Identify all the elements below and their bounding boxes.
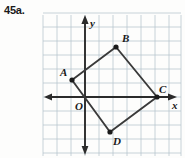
- vertex-label-d: D: [112, 135, 121, 147]
- figure-panel: 45a.: [0, 0, 185, 158]
- vertex-point-c: [154, 94, 159, 99]
- coordinate-plane-figure: A B C D O y x: [0, 0, 185, 158]
- coordinate-plane-svg: A B C D O y x: [0, 0, 185, 158]
- vertex-point-b: [113, 44, 118, 49]
- x-axis-label: x: [171, 99, 178, 111]
- origin-label: O: [75, 100, 83, 112]
- y-axis-label: y: [88, 17, 95, 29]
- vertex-point-a: [69, 77, 74, 82]
- vertex-label-a: A: [59, 66, 67, 78]
- vertex-label-b: B: [121, 32, 129, 44]
- vertex-point-d: [107, 129, 112, 134]
- vertex-label-c: C: [159, 83, 167, 95]
